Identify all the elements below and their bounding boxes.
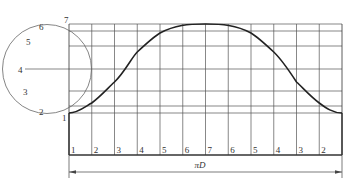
- column-label: 1: [71, 145, 76, 155]
- dimension-label: πD: [194, 160, 206, 170]
- column-label: 2: [321, 145, 326, 155]
- column-label: 5: [253, 145, 258, 155]
- column-labels: 1 2 3 4 5 6 7 6 5 4 3 2: [71, 145, 326, 155]
- column-label: 7: [208, 145, 213, 155]
- circle-label-5: 5: [26, 37, 31, 47]
- column-label: 5: [162, 145, 167, 155]
- column-label: 4: [139, 145, 144, 155]
- column-label: 4: [276, 145, 281, 155]
- column-label: 6: [230, 145, 235, 155]
- diagram-canvas: 1 2 3 4 5 6 7 1 2 3 4 5 6 7 6 5 4 3 2 πD: [0, 0, 359, 191]
- circle-label-3: 3: [23, 87, 28, 97]
- vertical-grid-lines: [92, 24, 320, 155]
- column-label: 6: [185, 145, 190, 155]
- circle-label-4: 4: [18, 65, 23, 75]
- circle-label-7: 7: [64, 15, 69, 25]
- circle-label-6: 6: [39, 22, 44, 32]
- arrow-right-icon: [335, 170, 342, 173]
- horizontal-grid-lines: [25, 24, 342, 113]
- circle-label-1: 1: [62, 113, 67, 123]
- circle-label-2: 2: [39, 107, 44, 117]
- column-label: 3: [117, 145, 122, 155]
- column-label: 2: [94, 145, 99, 155]
- column-label: 3: [299, 145, 304, 155]
- arrow-left-icon: [69, 170, 76, 173]
